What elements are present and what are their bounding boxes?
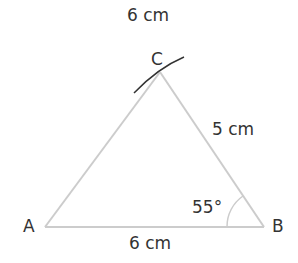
vertex-c-label: C [151,51,163,68]
title-label: 6 cm [127,7,169,24]
vertex-a-label: A [23,218,35,235]
side-bc-label: 5 cm [212,121,254,138]
side-ab-label: 6 cm [129,235,171,252]
triangle-construction-diagram: 6 cm C 5 cm 55° A B 6 cm [0,0,298,263]
angle-b-label: 55° [192,199,222,216]
vertex-b-label: B [272,218,284,235]
side-ac [45,72,160,227]
angle-b-arc [227,196,243,227]
